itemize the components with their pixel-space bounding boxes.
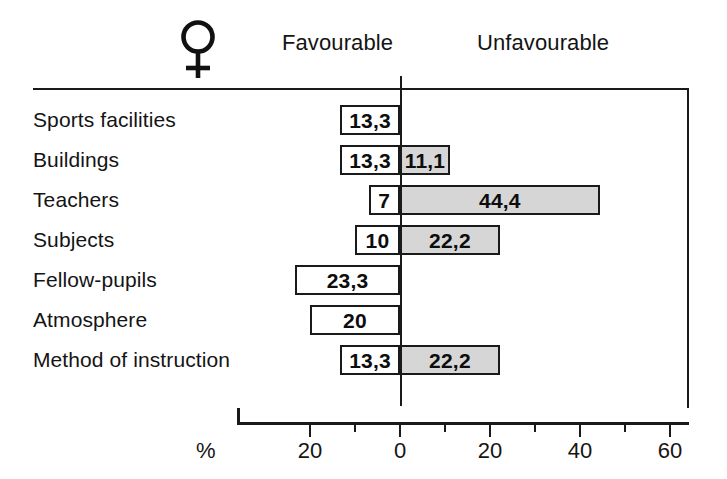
category-label: Atmosphere — [33, 308, 147, 332]
category-label: Teachers — [33, 188, 119, 212]
bar-value-label: 23,3 — [323, 270, 373, 291]
bar-value-label: 11,1 — [401, 150, 450, 171]
axis-tick-major — [669, 424, 671, 437]
bar-value-label: 13,3 — [345, 350, 395, 371]
table-row: Subjects1022,2 — [0, 220, 727, 260]
axis-tick-minor — [624, 424, 626, 432]
bar-unfavourable: 22,2 — [400, 345, 500, 375]
bar-value-label: 10 — [362, 230, 394, 251]
category-label: Sports facilities — [33, 108, 176, 132]
axis-tick-major — [579, 424, 581, 437]
axis-tick-label: 40 — [568, 438, 592, 464]
category-label: Buildings — [33, 148, 119, 172]
bar-rows: Sports facilities13,3Buildings13,311,1Te… — [0, 88, 727, 378]
bar-unfavourable: 22,2 — [400, 225, 500, 255]
venus-female-symbol-icon — [176, 18, 220, 80]
bar-favourable: 7 — [369, 185, 401, 215]
bar-favourable: 10 — [355, 225, 400, 255]
bar-value-label: 7 — [374, 190, 394, 211]
axis-unit-label: % — [196, 438, 216, 464]
bar-unfavourable: 11,1 — [400, 145, 450, 175]
bar-value-label: 44,4 — [475, 190, 525, 211]
category-label: Subjects — [33, 228, 114, 252]
table-row: Fellow-pupils23,3 — [0, 260, 727, 300]
table-row: Teachers744,4 — [0, 180, 727, 220]
bar-value-label: 22,2 — [425, 230, 475, 251]
axis-tick-label: 60 — [658, 438, 682, 464]
chart-header: Favourable Unfavourable — [0, 0, 727, 88]
category-label: Method of instruction — [33, 348, 230, 372]
axis-tick-label: 20 — [478, 438, 502, 464]
bar-value-label: 13,3 — [345, 110, 395, 131]
axis-line — [237, 422, 689, 425]
axis-tick-major — [399, 424, 401, 437]
bar-unfavourable: 44,4 — [400, 185, 600, 215]
tornado-chart: Favourable Unfavourable Sports facilitie… — [0, 0, 727, 479]
table-row: Method of instruction13,322,2 — [0, 340, 727, 380]
axis-tick-label: 0 — [394, 438, 406, 464]
bar-favourable: 13,3 — [340, 345, 400, 375]
bar-value-label: 13,3 — [345, 150, 395, 171]
column-header-favourable: Favourable — [282, 30, 393, 56]
axis-tick-major — [489, 424, 491, 437]
bar-value-label: 20 — [339, 310, 371, 331]
column-header-unfavourable: Unfavourable — [477, 30, 609, 56]
x-axis: % 200204060 — [0, 408, 727, 479]
axis-tick-minor — [444, 424, 446, 432]
bar-favourable: 23,3 — [295, 265, 400, 295]
table-row: Atmosphere20 — [0, 300, 727, 340]
axis-tick-minor — [534, 424, 536, 432]
axis-tick-minor — [354, 424, 356, 432]
category-label: Fellow-pupils — [33, 268, 157, 292]
table-row: Sports facilities13,3 — [0, 100, 727, 140]
bar-favourable: 13,3 — [340, 105, 400, 135]
axis-left-cap — [237, 408, 240, 424]
bar-favourable: 20 — [310, 305, 400, 335]
bar-favourable: 13,3 — [340, 145, 400, 175]
axis-tick-major — [309, 424, 311, 437]
axis-tick-label: 20 — [298, 438, 322, 464]
bar-value-label: 22,2 — [425, 350, 475, 371]
table-row: Buildings13,311,1 — [0, 140, 727, 180]
